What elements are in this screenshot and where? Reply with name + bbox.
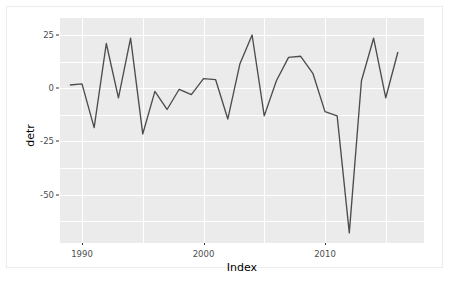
y-axis-tick-mark: [56, 35, 58, 36]
y-axis-tick-mark: [56, 88, 58, 89]
y-axis-tick-label: -50: [30, 190, 54, 199]
y-axis-tick-label: 0: [30, 84, 54, 93]
detr-line-series: [60, 18, 424, 243]
x-axis-tick-label: 2000: [193, 250, 215, 259]
x-axis-title: Index: [60, 262, 424, 273]
chart-figure: 250-25-50 199020002010 detr Index: [0, 0, 449, 302]
y-axis-tick-label: 25: [30, 31, 54, 40]
x-axis-tick-label: 1990: [71, 250, 93, 259]
y-axis-tick-mark: [56, 194, 58, 195]
y-axis-title: detr: [25, 106, 36, 166]
x-axis-tick-label: 2010: [314, 250, 336, 259]
x-axis-tick-mark: [204, 243, 205, 245]
x-axis-tick-mark: [82, 243, 83, 245]
plot-panel: [60, 18, 424, 243]
x-axis-tick-mark: [325, 243, 326, 245]
y-axis-tick-mark: [56, 141, 58, 142]
